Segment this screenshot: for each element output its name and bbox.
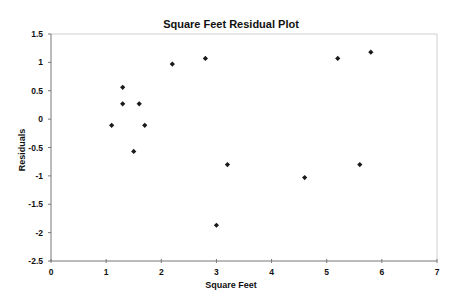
y-tick-label: 1.5	[31, 29, 43, 39]
y-tick-label: -1.5	[28, 199, 43, 209]
x-axis-label: Square Feet	[205, 280, 257, 290]
data-point	[109, 123, 114, 128]
data-point	[142, 123, 147, 128]
data-point	[170, 61, 175, 66]
y-tick-label: -1	[35, 171, 43, 181]
y-tick-label: -0.5	[28, 143, 43, 153]
y-tick-label: -2	[35, 228, 43, 238]
x-tick-label: 0	[49, 267, 54, 277]
data-point	[357, 162, 362, 167]
plot-area	[51, 34, 437, 261]
y-axis: 1.510.50-0.5-1-1.5-2-2.5	[28, 29, 51, 266]
y-tick-label: 0	[38, 114, 43, 124]
y-tick-label: 0.5	[31, 86, 43, 96]
data-point	[203, 56, 208, 61]
y-tick-label: -2.5	[28, 256, 43, 266]
data-points	[109, 50, 373, 228]
y-axis-label: Residuals	[17, 129, 27, 172]
data-point	[335, 56, 340, 61]
x-tick-label: 3	[214, 267, 219, 277]
chart-title: Square Feet Residual Plot	[163, 18, 299, 30]
data-point	[225, 162, 230, 167]
data-point	[302, 175, 307, 180]
x-axis: 01234567	[49, 259, 440, 277]
data-point	[120, 85, 125, 90]
y-tick-label: 1	[38, 57, 43, 67]
x-tick-label: 4	[269, 267, 274, 277]
x-tick-label: 1	[104, 267, 109, 277]
data-point	[137, 101, 142, 106]
x-tick-label: 2	[159, 267, 164, 277]
data-point	[120, 101, 125, 106]
data-point	[214, 223, 219, 228]
x-tick-label: 6	[379, 267, 384, 277]
x-tick-label: 7	[435, 267, 440, 277]
residual-plot: Square Feet Residual Plot 1.510.50-0.5-1…	[0, 0, 452, 306]
x-tick-label: 5	[324, 267, 329, 277]
data-point	[368, 50, 373, 55]
data-point	[131, 149, 136, 154]
